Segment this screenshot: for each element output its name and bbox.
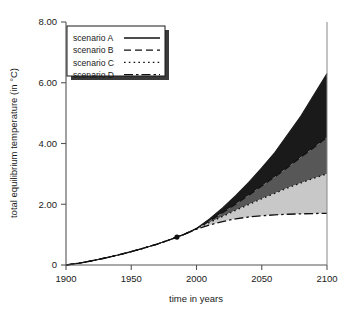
- x-tick-label: 1950: [121, 273, 142, 284]
- y-tick-label: 8.00: [39, 16, 58, 27]
- equilibrium-temperature-chart: 02.004.006.008.00 19001950200020502100 t…: [0, 0, 348, 313]
- legend-label-scenario-d: scenario D: [73, 70, 114, 80]
- chart-legend: scenario Ascenario Bscenario Cscenario D: [67, 26, 169, 80]
- x-tick-label: 2000: [186, 273, 207, 284]
- present-day-marker: [174, 234, 179, 239]
- y-tick-label: 2.00: [39, 199, 58, 210]
- x-axis-label: time in years: [169, 293, 223, 304]
- legend-label-scenario-b: scenario B: [73, 45, 114, 55]
- x-tick-label: 1900: [55, 273, 76, 284]
- y-tick-label: 4.00: [39, 138, 58, 149]
- legend-label-scenario-a: scenario A: [73, 33, 113, 43]
- y-tick-label: 6.00: [39, 77, 58, 88]
- present-day-marker: [174, 234, 179, 239]
- x-tick-label: 2050: [251, 273, 272, 284]
- x-tick-label: 2100: [316, 273, 337, 284]
- legend-label-scenario-c: scenario C: [73, 58, 114, 68]
- y-axis-label: total equilibrium temperature (in °C): [8, 68, 19, 218]
- y-tick-label: 0: [52, 259, 57, 270]
- chart-figure: 02.004.006.008.00 19001950200020502100 t…: [0, 0, 348, 313]
